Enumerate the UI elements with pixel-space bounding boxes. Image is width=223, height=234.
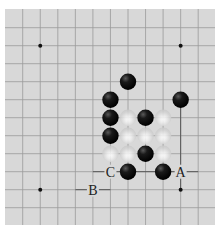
black-stone[interactable] (120, 74, 136, 90)
white-stone[interactable] (137, 128, 153, 144)
star-point-icon (38, 188, 42, 192)
black-stone[interactable] (102, 92, 118, 108)
black-stone[interactable] (172, 92, 188, 108)
white-stone[interactable] (155, 110, 171, 126)
white-stone[interactable] (120, 128, 136, 144)
black-stone[interactable] (120, 164, 136, 180)
white-stone[interactable] (155, 146, 171, 162)
black-stone[interactable] (137, 110, 153, 126)
black-stone[interactable] (155, 164, 171, 180)
star-point-icon (179, 44, 183, 48)
white-stone[interactable] (120, 146, 136, 162)
star-point-icon (38, 44, 42, 48)
black-stone[interactable] (102, 110, 118, 126)
star-point-icon (179, 188, 183, 192)
board-surface[interactable]: CAB (0, 0, 223, 234)
point-label: A (176, 165, 187, 180)
point-label: B (88, 183, 97, 198)
point-labels: CAB (87, 165, 187, 198)
white-stone[interactable] (155, 128, 171, 144)
black-stone[interactable] (102, 128, 118, 144)
white-stone[interactable] (102, 146, 118, 162)
white-stone[interactable] (120, 110, 136, 126)
black-stone[interactable] (137, 146, 153, 162)
point-label: C (106, 165, 115, 180)
